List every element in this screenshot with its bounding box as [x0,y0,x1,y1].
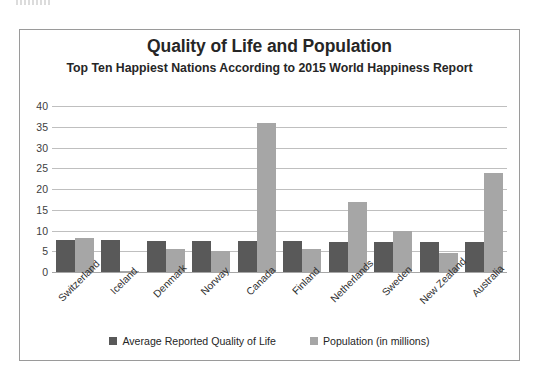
chart-title: Quality of Life and Population [20,36,519,58]
x-axis-label-group: Iceland [98,273,144,335]
bar-quality-of-life [374,242,393,272]
bar-group [98,106,144,272]
legend-item[interactable]: Population (in millions) [310,335,430,347]
bar-group [189,106,235,272]
y-axis-tick-10: 10 [36,225,48,236]
bar-group [143,106,189,272]
y-axis-tick-5: 5 [42,246,48,257]
legend-swatch-icon [310,337,318,345]
bar-quality-of-life [147,241,166,272]
x-axis-label-group: Finland [280,273,326,335]
y-axis-tick-25: 25 [36,163,48,174]
bar-quality-of-life [329,242,348,272]
y-axis-tick-35: 35 [36,122,48,133]
x-axis-labels: SwitzerlandIcelandDenmarkNorwayCanadaFin… [52,273,507,335]
legend-label: Population (in millions) [323,335,430,347]
bar-quality-of-life [56,240,75,272]
bar-quality-of-life [101,240,120,272]
bar-quality-of-life [283,241,302,272]
y-axis: 4035302520151050 [22,106,48,272]
legend-swatch-icon [109,337,117,345]
y-axis-tick-0: 0 [42,267,48,278]
page-top-artifact [16,0,50,5]
x-axis-label-group: Denmark [143,273,189,335]
y-axis-tick-15: 15 [36,205,48,216]
bar-group [280,106,326,272]
bar-group [234,106,280,272]
x-axis-label-group: Australia [462,273,508,335]
bar-groups [52,106,507,272]
bar-quality-of-life [238,241,257,272]
title-block: Quality of Life and Population Top Ten H… [20,36,519,76]
chart-subtitle: Top Ten Happiest Nations According to 20… [20,60,519,77]
bar-group [371,106,417,272]
y-axis-tick-20: 20 [36,184,48,195]
x-axis-label-group: Switzerland [52,273,98,335]
x-axis-label-group: Canada [234,273,280,335]
legend-item[interactable]: Average Reported Quality of Life [109,335,276,347]
bar-group [52,106,98,272]
bar-population [484,173,503,272]
y-axis-tick-30: 30 [36,142,48,153]
x-axis-label-group: Netherlands [325,273,371,335]
chart-legend: Average Reported Quality of LifePopulati… [20,335,519,347]
bar-quality-of-life [465,242,484,272]
x-axis-label-group: Norway [189,273,235,335]
chart-container: Quality of Life and Population Top Ten H… [19,29,520,361]
y-axis-tick-40: 40 [36,101,48,112]
bar-group [325,106,371,272]
bar-group [462,106,508,272]
plot-area: 4035302520151050 [52,106,507,272]
bar-population [257,123,276,272]
x-axis-label-group: New Zealand [416,273,462,335]
bar-group [416,106,462,272]
bar-quality-of-life [420,242,439,272]
legend-label: Average Reported Quality of Life [122,335,276,347]
x-axis-label-group: Sweden [371,273,417,335]
bar-quality-of-life [192,241,211,272]
